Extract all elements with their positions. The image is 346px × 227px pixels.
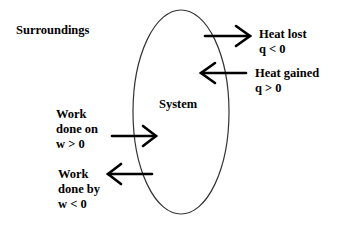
- heat-gained-label: Heat gained q > 0: [255, 66, 319, 96]
- heat-lost-arrow-icon: [205, 26, 250, 46]
- system-label: System: [159, 97, 197, 112]
- work-done-by-line2: done by: [58, 182, 100, 197]
- work-done-by-sign: w < 0: [58, 197, 100, 212]
- work-done-by-line1: Work: [58, 167, 100, 182]
- heat-gained-title: Heat gained: [255, 66, 319, 81]
- heat-lost-title: Heat lost: [259, 27, 307, 42]
- system-boundary: [133, 10, 229, 214]
- work-done-on-label: Work done on w > 0: [56, 107, 98, 152]
- heat-lost-label: Heat lost q < 0: [259, 27, 307, 57]
- heat-lost-sign: q < 0: [259, 42, 307, 57]
- surroundings-label: Surroundings: [16, 23, 89, 38]
- work-done-by-label: Work done by w < 0: [58, 167, 100, 212]
- work-done-on-line2: done on: [56, 122, 98, 137]
- work-done-on-sign: w > 0: [56, 137, 98, 152]
- work-done-on-line1: Work: [56, 107, 98, 122]
- heat-gained-sign: q > 0: [255, 81, 319, 96]
